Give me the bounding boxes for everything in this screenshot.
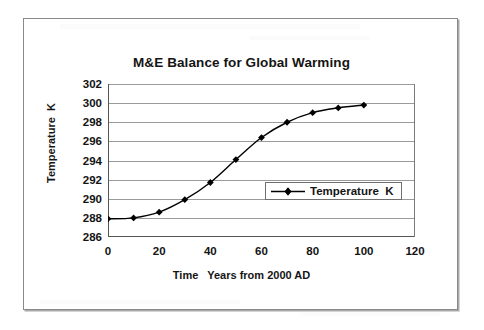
plot-area: 286288290292294296298300302 020406080100… (108, 84, 415, 237)
data-point-20 (156, 209, 163, 216)
data-point-70 (284, 119, 291, 126)
y-tick-label-300: 300 (83, 97, 102, 109)
y-tick-label-292: 292 (83, 174, 102, 186)
legend-label-temperature: Temperature K (310, 185, 394, 197)
x-tick-label-20: 20 (153, 245, 166, 257)
plot-svg (108, 84, 415, 237)
y-tick-label-286: 286 (83, 231, 102, 243)
data-point-80 (309, 109, 316, 116)
x-tick-label-120: 120 (405, 245, 424, 257)
data-point-30 (181, 196, 188, 203)
y-tick-label-296: 296 (83, 135, 102, 147)
chart-title: M&E Balance for Global Warming (24, 55, 459, 70)
data-point-100 (360, 102, 367, 109)
chart-legend: Temperature K (265, 182, 402, 200)
y-tick-label-290: 290 (83, 193, 102, 205)
y-tick-label-288: 288 (83, 212, 102, 224)
y-tick-label-294: 294 (83, 155, 102, 167)
x-axis-title: Time Years from 2000 AD (24, 269, 459, 281)
legend-marker-icon (271, 186, 305, 197)
x-tick-label-0: 0 (105, 245, 111, 257)
y-tick-label-302: 302 (83, 78, 102, 90)
chart-frame: M&E Balance for Global Warming Temperatu… (23, 18, 458, 310)
y-axis-title: Temperature K (45, 83, 57, 203)
data-point-10 (130, 214, 137, 221)
x-tick-label-80: 80 (306, 245, 319, 257)
x-tick-label-40: 40 (204, 245, 217, 257)
x-tick-label-60: 60 (255, 245, 268, 257)
data-point-0 (108, 215, 111, 222)
x-tick-label-100: 100 (354, 245, 373, 257)
data-point-90 (335, 105, 342, 112)
y-tick-label-298: 298 (83, 116, 102, 128)
